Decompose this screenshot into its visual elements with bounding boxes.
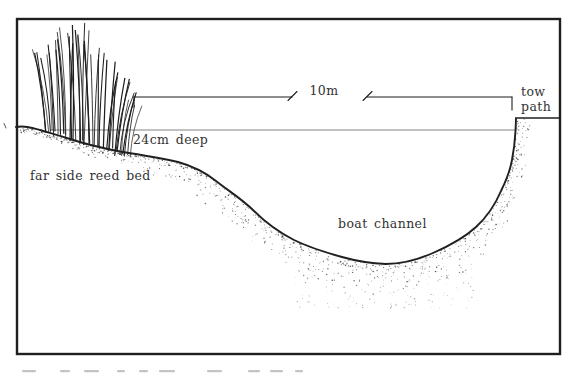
canal-cross-section-drawing	[0, 0, 578, 374]
width-dimension-line	[134, 92, 512, 111]
bank-and-bed-profile	[16, 119, 516, 264]
cropped-caption-fragments	[22, 370, 303, 372]
margin-tick	[4, 124, 6, 129]
canal-cross-section-figure: far side reed bed 24cm deep 10m boat cha…	[0, 0, 578, 374]
